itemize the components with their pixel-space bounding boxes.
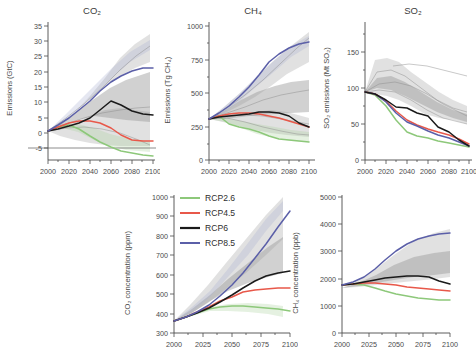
series-line-rcp45 [342,283,450,291]
svg-text:2060: 2060 [261,167,277,176]
panel-title-so2: SO₂ [404,5,422,16]
svg-text:2020: 2020 [221,167,237,176]
svg-text:2020: 2020 [61,167,77,176]
rcp-scenario-legend: RCP2.6 RCP4.5 RCP6 RCP8.5 [180,193,235,248]
panel-so2-emissions: SO₂ SO₂ emissions (Mt SO₂) 150 [317,0,476,180]
svg-text:2025: 2025 [361,340,377,349]
svg-text:2050: 2050 [224,340,240,349]
plot-area-co2-concentration: 1000900 800700 600500 400300 20002025 20… [152,193,298,349]
svg-text:2025: 2025 [195,340,211,349]
svg-text:2080: 2080 [124,167,140,176]
svg-text:600: 600 [156,271,168,280]
svg-text:2040: 2040 [241,167,257,176]
plot-area-ch4-emissions: 1000750 500250 0 20002020 20402060 20802… [187,22,317,176]
svg-text:2000: 2000 [201,167,217,176]
svg-text:1000: 1000 [152,193,168,202]
svg-text:2075: 2075 [415,340,431,349]
svg-text:2080: 2080 [281,167,297,176]
svg-text:500: 500 [191,89,203,98]
svg-text:0: 0 [199,156,203,165]
svg-text:2080: 2080 [441,167,457,176]
panel-title-co2: CO₂ [83,5,101,16]
svg-text:1000: 1000 [320,302,336,311]
svg-text:700: 700 [156,251,168,260]
legend-label-rcp45: RCP4.5 [205,208,235,218]
svg-text:800: 800 [156,232,168,241]
svg-text:25: 25 [34,52,42,61]
svg-text:15: 15 [34,83,42,92]
rcp-scenarios-figure: CO₂ Emissions (GtC) [0,0,476,357]
svg-text:2000: 2000 [320,275,336,284]
svg-text:-5: -5 [36,144,42,153]
svg-text:900: 900 [156,212,168,221]
svg-text:300: 300 [156,329,168,338]
y-axis-label-so2-emissions: SO₂ emissions (Mt SO₂) [322,47,331,129]
svg-text:2100: 2100 [461,167,476,176]
svg-text:1000: 1000 [187,22,203,31]
svg-text:5000: 5000 [320,193,336,202]
svg-text:2000: 2000 [166,340,182,349]
y-axis-label-ch4-concentration: CH₄ concentration (ppb) [291,232,300,314]
svg-text:400: 400 [156,310,168,319]
svg-text:35: 35 [34,22,42,31]
svg-text:2050: 2050 [388,340,404,349]
svg-text:0: 0 [355,156,359,165]
svg-text:2000: 2000 [334,340,350,349]
svg-text:0: 0 [38,129,42,138]
svg-text:2060: 2060 [103,167,119,176]
svg-text:2020: 2020 [378,167,394,176]
legend-label-rcp6: RCP6 [205,223,228,233]
plot-area-co2-emissions: 3530 2520 1510 50 -5 20002020 [28,22,160,176]
panel-co2-concentration: CO₂ concentration (ppm) 1000900 800700 [118,181,298,357]
plot-area-ch4-concentration: 50004000 30002000 10000 20002025 2050207… [320,193,458,349]
svg-text:150: 150 [347,48,359,57]
legend-label-rcp26: RCP2.6 [205,193,235,203]
panel-ch4-emissions: CH₄ Emissions (Tg CH₄) [157,0,319,180]
plot-area-so2-emissions: 150100 500 20002020 20402060 20802100 [347,22,476,176]
svg-text:100: 100 [347,84,359,93]
svg-text:250: 250 [191,123,203,132]
svg-text:30: 30 [34,37,42,46]
y-axis-label-co2-emissions: Emissions (GtC) [5,60,14,116]
legend-label-rcp85: RCP8.5 [205,238,235,248]
svg-text:2100: 2100 [301,167,317,176]
svg-text:2100: 2100 [442,340,458,349]
svg-text:3000: 3000 [320,247,336,256]
svg-text:750: 750 [191,56,203,65]
svg-text:2000: 2000 [40,167,56,176]
svg-text:2000: 2000 [357,167,373,176]
panel-title-ch4: CH₄ [244,5,262,16]
svg-text:2075: 2075 [253,340,269,349]
y-axis-label-co2-concentration: CO₂ concentration (ppm) [123,231,132,315]
svg-text:2040: 2040 [82,167,98,176]
svg-text:0: 0 [332,329,336,338]
svg-text:5: 5 [38,114,42,123]
svg-text:20: 20 [34,68,42,77]
svg-text:4000: 4000 [320,220,336,229]
svg-text:10: 10 [34,98,42,107]
panel-ch4-concentration: CH₄ concentration (ppb) 50004000 3000200… [288,181,476,357]
y-axis-label-ch4-emissions: Emissions (Tg CH₄) [163,56,172,123]
svg-text:50: 50 [351,120,359,129]
svg-text:2060: 2060 [420,167,436,176]
svg-text:500: 500 [156,290,168,299]
panel-co2-emissions: CO₂ Emissions (GtC) [0,0,160,180]
svg-text:2040: 2040 [399,167,415,176]
